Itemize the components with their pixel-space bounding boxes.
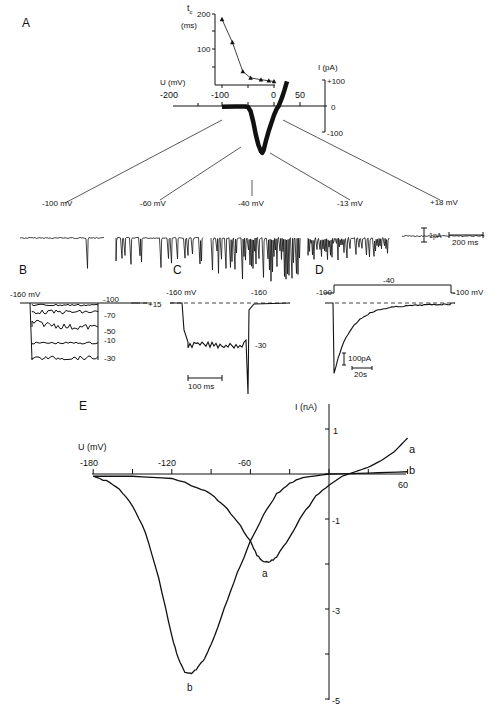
c-scalebar-100ms: 100 ms: [188, 382, 214, 391]
trace-label-m100: -100 mV: [42, 199, 73, 208]
e-x-axis-label: U (mV): [78, 442, 107, 452]
panel-label-b: B: [19, 263, 27, 277]
b-label-m100: -100: [103, 295, 120, 304]
panel-label-d: D: [315, 263, 324, 277]
d-scalebar-100pa: 100pA: [348, 354, 372, 363]
d-label-m100: -100: [316, 288, 333, 297]
b-label-p15: +15: [148, 300, 162, 309]
a-tick-m200: -200: [160, 90, 178, 100]
a-inset-plot: tc (ms) 200 100: [181, 3, 276, 88]
trace-label-m60: -60 mV: [140, 199, 166, 208]
a-tick-0: 0: [271, 90, 276, 100]
c-label-m160: -160: [251, 288, 268, 297]
a-tick-50: 50: [295, 90, 305, 100]
panel-label-a: A: [22, 16, 30, 30]
c-label-m30: -30: [255, 341, 267, 350]
tc-series-line: [222, 19, 274, 81]
e-tick-m60: -60: [238, 458, 251, 468]
tc-markers: [220, 17, 277, 83]
e-legend-a: a: [409, 443, 416, 455]
e-annot-a: a: [262, 568, 268, 579]
e-tick-m5: -5: [332, 696, 340, 706]
d-scalebar-20s: 20s: [354, 370, 367, 379]
e-curve-b: [93, 472, 407, 674]
scalebar-1pa: 1pA: [429, 232, 442, 240]
single-channel-traces: [20, 235, 485, 281]
a-iv-plot: U (mV) -200 -100 0 50 I (pA) +100 0 -100: [160, 63, 346, 153]
scalebar-200ms: 200 ms: [452, 238, 478, 247]
b-label-m50: -50: [104, 327, 116, 336]
d-label-m40: -40: [383, 276, 395, 285]
a-tick-m100: -100: [211, 90, 229, 100]
trace-label-m13: -13 mV: [337, 199, 363, 208]
e-tick-60: 60: [398, 480, 408, 490]
trace-label-m40: -40 mV: [238, 199, 264, 208]
e-legend-b: b: [409, 464, 415, 476]
tc-tick-100: 100: [197, 45, 211, 54]
e-curve-a: [93, 438, 407, 562]
b-label-m30: -30: [104, 354, 116, 363]
trace-label-p18: +18 mV: [430, 198, 458, 207]
c-holding-label: -160 mV: [166, 288, 197, 297]
a-tick-m100y: -100: [327, 129, 344, 138]
tc-unit: (ms): [181, 21, 197, 30]
panel-label-e: E: [79, 399, 87, 413]
e-tick-m120: -120: [158, 458, 176, 468]
b-label-m10: -10: [104, 336, 116, 345]
b-label-m70: -70: [104, 311, 116, 320]
panel-label-c: C: [173, 263, 182, 277]
trace-scalebars: 1pA 200 ms: [421, 228, 483, 247]
a-x-axis-label: U (mV): [160, 78, 186, 87]
tc-tick-200: 200: [197, 10, 211, 19]
c-plot: -160 mV -160 -30 100 ms: [166, 288, 290, 394]
a-tick-y0: 0: [331, 103, 336, 112]
e-tick-1: 1: [333, 426, 338, 436]
connector-lines: [65, 120, 440, 203]
b-plot: -160 mV -100 +15 -70 -50 -10 -30: [10, 290, 162, 363]
tc-axis-label: tc: [187, 3, 193, 15]
e-plot: I (nA) U (mV) -180 -120 -60 60 1 -1 -3 -…: [78, 402, 416, 706]
e-tick-m3: -3: [332, 606, 340, 616]
e-annot-b: b: [187, 682, 193, 693]
a-y-axis-label: I (pA): [318, 63, 338, 72]
a-tick-p100: +100: [327, 77, 346, 86]
d-label-m100mv: -100 mV: [453, 288, 484, 297]
e-tick-m1: -1: [332, 516, 340, 526]
d-plot: -100 -40 -100 mV 100pA 20s: [316, 276, 484, 379]
figure: A tc (ms) 200 100 U (mV) -200 -100 0: [0, 0, 492, 710]
a-iv-curve: [222, 81, 287, 153]
e-y-axis-label: I (nA): [295, 402, 317, 412]
e-tick-m180: -180: [80, 458, 98, 468]
b-holding-label: -160 mV: [10, 290, 41, 299]
